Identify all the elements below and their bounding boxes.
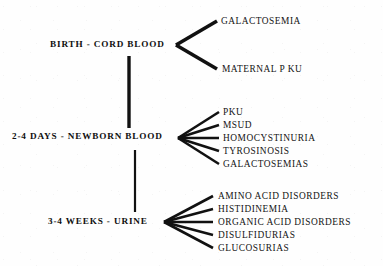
leaf-histidinemia: HISTIDINEMIA — [218, 203, 351, 216]
leaf-maternal-pku: MATERNAL P KU — [222, 64, 302, 74]
leaf-list-urine: AMINO ACID DISORDERS HISTIDINEMIA ORGANI… — [218, 190, 351, 255]
leaf-tyrosinosis: TYROSINOSIS — [223, 145, 315, 158]
edge-urine-to-amino-acid-disorders — [164, 196, 213, 222]
leaf-organic-acid-disorders: ORGANIC ACID DISORDERS — [218, 216, 351, 229]
leaf-pku: PKU — [223, 106, 315, 119]
edge-urine-to-disulfidurias — [164, 222, 213, 235]
leaf-galactosemia: GALACTOSEMIA — [221, 16, 301, 26]
leaf-list-newborn-blood: PKU MSUD HOMOCYSTINURIA TYROSINOSIS GALA… — [223, 106, 315, 171]
leaf-galactosemias: GALACTOSEMIAS — [223, 158, 315, 171]
edge-birth-to-galactosemia — [176, 21, 217, 45]
edge-urine-to-glucosurias — [164, 222, 213, 248]
edge-newborn-to-tyrosinosis — [178, 138, 219, 151]
edge-newborn-to-pku — [178, 112, 219, 138]
leaf-homocystinuria: HOMOCYSTINURIA — [223, 132, 315, 145]
leaf-msud: MSUD — [223, 119, 315, 132]
stage-label-newborn-blood: 2-4 DAYS - NEWBORN BLOOD — [12, 131, 163, 141]
stage-label-urine: 3-4 WEEKS - URINE — [48, 216, 148, 226]
edge-newborn-to-galactosemias — [178, 138, 219, 164]
leaf-glucosurias: GLUCOSURIAS — [218, 242, 351, 255]
diagram-canvas: BIRTH - CORD BLOOD GALACTOSEMIA MATERNAL… — [0, 0, 383, 266]
edge-birth-to-maternal-pku — [176, 45, 217, 69]
leaf-amino-acid-disorders: AMINO ACID DISORDERS — [218, 190, 351, 203]
edge-urine-to-histidinemia — [164, 209, 213, 222]
leaf-disulfidurias: DISULFIDURIAS — [218, 229, 351, 242]
edge-newborn-to-msud — [178, 125, 219, 138]
stage-label-birth-cord-blood: BIRTH - CORD BLOOD — [50, 39, 165, 49]
